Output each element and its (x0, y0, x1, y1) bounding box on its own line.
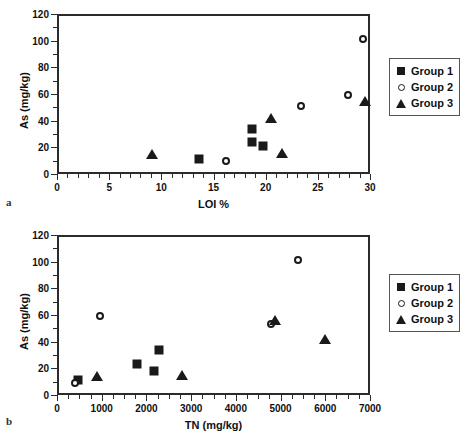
panel-a: 051015202530020406080100120LOI %As (mg/k… (0, 0, 467, 219)
data-point-square (194, 155, 203, 164)
legend-item: Group 2 (394, 295, 453, 311)
x-axis-minor-tick (67, 174, 68, 178)
y-axis-major-tick (51, 174, 57, 175)
circle-marker-glyph (398, 300, 405, 307)
panel-b: 0100020003000400050006000700002040608010… (0, 219, 467, 439)
square-marker (394, 283, 408, 291)
x-axis-major-tick (318, 174, 319, 180)
y-axis-major-tick (51, 14, 57, 15)
y-axis-minor-tick (53, 107, 57, 108)
x-axis-minor-tick (78, 174, 79, 178)
data-point-square (258, 142, 267, 151)
x-axis-minor-tick (91, 395, 92, 399)
x-axis-major-tick (57, 174, 58, 180)
y-axis-minor-tick (53, 54, 57, 55)
panel-letter-b: b (6, 415, 12, 427)
y-axis-tick-label: 20 (17, 142, 49, 153)
x-axis-major-tick (57, 395, 58, 401)
plot-frame (57, 14, 370, 174)
data-point-circle (297, 102, 305, 110)
x-axis-minor-tick (292, 395, 293, 399)
x-axis-minor-tick (269, 395, 270, 399)
x-axis-minor-tick (169, 395, 170, 399)
x-axis-minor-tick (297, 174, 298, 178)
data-point-square (150, 367, 159, 376)
y-axis-tick-label: 120 (17, 9, 49, 20)
y-axis-major-tick (51, 235, 57, 236)
circle-marker (394, 300, 408, 307)
data-point-triangle (319, 334, 331, 344)
x-axis-tick-label: 7000 (359, 403, 381, 414)
x-axis-major-tick (109, 174, 110, 180)
x-axis-minor-tick (255, 174, 256, 178)
x-axis-minor-tick (182, 174, 183, 178)
legend-item-label: Group 3 (411, 97, 453, 109)
x-axis-tick-label: 30 (364, 182, 375, 193)
x-axis-tick-label: 25 (312, 182, 323, 193)
y-axis-minor-tick (53, 382, 57, 383)
data-point-circle (359, 35, 367, 43)
x-axis-minor-tick (247, 395, 248, 399)
y-axis-major-tick (51, 315, 57, 316)
y-axis-tick-label: 20 (17, 363, 49, 374)
x-axis-major-tick (370, 395, 371, 401)
x-axis-minor-tick (214, 395, 215, 399)
x-axis-title: TN (mg/kg) (185, 419, 242, 431)
triangle-marker (394, 99, 408, 108)
legend-item-label: Group 3 (411, 313, 453, 325)
chart-legend: Group 1Group 2Group 3 (389, 274, 460, 332)
x-axis-minor-tick (336, 395, 337, 399)
x-axis-major-tick (281, 395, 282, 401)
y-axis-minor-tick (53, 134, 57, 135)
data-point-square (248, 124, 257, 133)
x-axis-minor-tick (120, 174, 121, 178)
x-axis-minor-tick (79, 395, 80, 399)
plot-frame (57, 235, 370, 395)
y-axis-tick-label: 0 (17, 169, 49, 180)
data-point-square (133, 360, 142, 369)
x-axis-tick-label: 1000 (91, 403, 113, 414)
x-axis-tick-label: 20 (260, 182, 271, 193)
y-axis-major-tick (51, 147, 57, 148)
data-point-square (154, 345, 163, 354)
x-axis-major-tick (191, 395, 192, 401)
data-point-circle (96, 312, 104, 320)
x-axis-major-tick (370, 174, 371, 180)
x-axis-minor-tick (287, 174, 288, 178)
x-axis-major-tick (236, 395, 237, 401)
x-axis-minor-tick (276, 174, 277, 178)
x-axis-minor-tick (359, 395, 360, 399)
legend-item-label: Group 2 (411, 297, 453, 309)
triangle-marker-glyph (396, 99, 406, 108)
y-axis-major-tick (51, 288, 57, 289)
x-axis-minor-tick (224, 174, 225, 178)
x-axis-tick-label: 15 (208, 182, 219, 193)
x-axis-major-tick (214, 174, 215, 180)
x-axis-minor-tick (68, 395, 69, 399)
x-axis-minor-tick (158, 395, 159, 399)
x-axis-tick-label: 6000 (314, 403, 336, 414)
x-axis-minor-tick (203, 174, 204, 178)
data-point-square (248, 138, 257, 147)
data-point-triangle (269, 315, 281, 325)
y-axis-major-tick (51, 94, 57, 95)
data-point-circle (71, 379, 79, 387)
x-axis-minor-tick (328, 174, 329, 178)
data-point-triangle (176, 370, 188, 380)
y-axis-major-tick (51, 342, 57, 343)
circle-marker (394, 84, 408, 91)
x-axis-minor-tick (113, 395, 114, 399)
y-axis-major-tick (51, 395, 57, 396)
data-point-triangle (276, 148, 288, 158)
data-point-triangle (359, 96, 371, 106)
x-axis-major-tick (325, 395, 326, 401)
y-axis-tick-label: 120 (17, 230, 49, 241)
x-axis-minor-tick (124, 395, 125, 399)
x-axis-minor-tick (99, 174, 100, 178)
y-axis-major-tick (51, 262, 57, 263)
square-marker (394, 67, 408, 75)
x-axis-minor-tick (88, 174, 89, 178)
x-axis-tick-label: 2000 (135, 403, 157, 414)
y-axis-minor-tick (53, 81, 57, 82)
x-axis-tick-label: 3000 (180, 403, 202, 414)
